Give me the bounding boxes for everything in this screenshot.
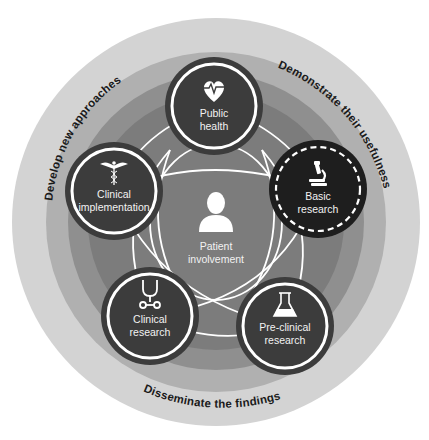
node-label-line2: implementation: [78, 201, 149, 213]
center-label-line1: Patient: [200, 240, 233, 252]
node-pre-clinical-research[interactable]: Pre-clinical research: [236, 277, 334, 375]
node-label-line2: research: [130, 326, 171, 338]
node-label-line2: health: [200, 120, 229, 132]
node-label-line1: Clinical: [133, 313, 167, 325]
node-basic-research[interactable]: Basic research: [269, 140, 367, 238]
node-label-line1: Public: [200, 107, 229, 119]
node-clinical-implementation[interactable]: Clinical implementation: [65, 142, 163, 240]
center-label-line2: involvement: [188, 253, 244, 265]
research-cycle-diagram: Develop new approaches Demonstrate their…: [0, 0, 429, 440]
node-label-line2: research: [298, 203, 339, 215]
node-label-line1: Pre-clinical: [259, 321, 310, 333]
node-label-line2: research: [265, 334, 306, 346]
node-label-line1: Clinical: [97, 188, 131, 200]
node-clinical-research[interactable]: Clinical research: [101, 267, 199, 365]
node-label-line1: Basic: [305, 190, 331, 202]
node-public-health[interactable]: Public health: [165, 57, 263, 155]
